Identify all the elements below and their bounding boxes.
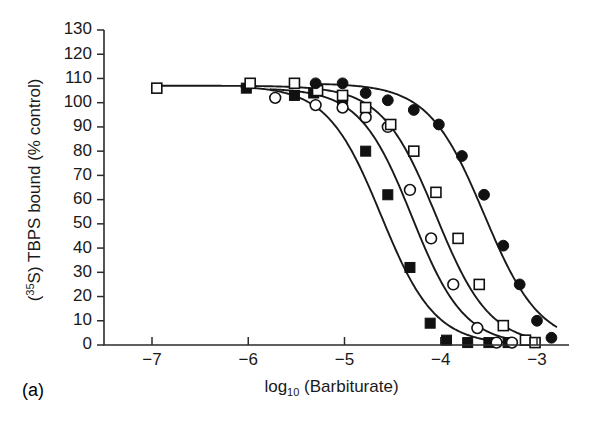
data-point-filled-circle bbox=[498, 240, 509, 251]
data-point-filled-square bbox=[361, 146, 371, 156]
data-point-filled-circle bbox=[514, 279, 525, 290]
data-point-filled-square bbox=[463, 338, 473, 348]
y-axis-tick-label: 110 bbox=[65, 68, 92, 87]
data-point-filled-square bbox=[289, 90, 299, 100]
y-axis-tick-label: 70 bbox=[73, 165, 92, 184]
data-point-open-square bbox=[474, 279, 484, 289]
y-axis-tick-label: 130 bbox=[64, 19, 92, 38]
data-point-filled-circle bbox=[546, 332, 557, 343]
data-point-filled-circle bbox=[408, 105, 419, 116]
data-point-open-circle bbox=[337, 102, 348, 113]
data-point-open-circle bbox=[310, 100, 321, 111]
series-curve-open-square bbox=[152, 86, 540, 340]
panel-label: (a) bbox=[22, 380, 44, 401]
data-point-filled-circle bbox=[433, 119, 444, 130]
y-axis-tick-label: 80 bbox=[73, 141, 92, 160]
x-axis-tick-label: −7 bbox=[142, 350, 161, 369]
data-point-open-square bbox=[245, 78, 255, 88]
data-point-open-square bbox=[520, 335, 530, 345]
data-point-open-circle bbox=[491, 337, 502, 348]
y-axis-tick-label: 30 bbox=[73, 262, 92, 281]
x-axis-tick-label: −4 bbox=[431, 350, 450, 369]
figure-panel: 0102030405060708090100110120130−7−6−5−4−… bbox=[0, 0, 601, 431]
y-axis-tick-label: 50 bbox=[73, 213, 92, 232]
y-axis-tick-label: 90 bbox=[73, 116, 92, 135]
y-axis-tick-label: 100 bbox=[64, 92, 92, 111]
data-point-open-square bbox=[498, 321, 508, 331]
data-point-filled-square bbox=[405, 262, 415, 272]
data-point-open-square bbox=[409, 146, 419, 156]
data-point-filled-square bbox=[442, 335, 452, 345]
data-point-filled-circle bbox=[479, 189, 490, 200]
data-point-open-square bbox=[431, 187, 441, 197]
y-axis-tick-label: 0 bbox=[83, 334, 92, 353]
data-point-open-circle bbox=[270, 92, 281, 103]
markers-layer bbox=[152, 78, 557, 348]
data-point-open-square bbox=[530, 338, 540, 348]
x-axis-tick-label: −3 bbox=[527, 350, 546, 369]
data-point-filled-circle bbox=[457, 151, 468, 162]
dose-response-chart: 0102030405060708090100110120130−7−6−5−4−… bbox=[0, 0, 601, 431]
data-point-open-circle bbox=[507, 337, 518, 348]
y-axis-title: (35S) TBPS bound (% control) bbox=[24, 79, 44, 302]
data-point-open-square bbox=[361, 103, 371, 113]
data-point-open-circle bbox=[405, 185, 416, 196]
y-axis-tick-label: 10 bbox=[73, 310, 92, 329]
series-curve-filled-square bbox=[242, 87, 513, 343]
data-point-open-circle bbox=[448, 279, 459, 290]
y-axis-tick-label: 20 bbox=[73, 286, 92, 305]
curves-layer bbox=[152, 84, 556, 343]
data-point-open-square bbox=[152, 83, 162, 93]
x-axis-tick-label: −5 bbox=[335, 350, 354, 369]
data-point-filled-square bbox=[425, 318, 435, 328]
y-axis-tick-label: 40 bbox=[73, 238, 92, 257]
data-point-open-square bbox=[289, 78, 299, 88]
x-axis-tick-label: −6 bbox=[239, 350, 258, 369]
data-point-filled-circle bbox=[382, 95, 393, 106]
axis-frame bbox=[104, 30, 569, 345]
y-axis-tick-label: 120 bbox=[64, 44, 92, 63]
data-point-filled-circle bbox=[337, 78, 348, 89]
data-point-filled-circle bbox=[532, 315, 543, 326]
data-point-filled-circle bbox=[360, 88, 371, 99]
data-point-open-circle bbox=[426, 233, 437, 244]
y-axis-tick-label: 60 bbox=[73, 189, 92, 208]
data-point-filled-square bbox=[383, 190, 393, 200]
data-point-open-square bbox=[453, 233, 463, 243]
x-axis-title: log10 (Barbiturate) bbox=[264, 377, 398, 398]
data-point-open-square bbox=[338, 90, 348, 100]
data-point-filled-circle bbox=[310, 78, 321, 89]
data-point-open-square bbox=[386, 120, 396, 130]
data-point-open-circle bbox=[472, 323, 483, 334]
data-point-open-circle bbox=[360, 112, 371, 123]
